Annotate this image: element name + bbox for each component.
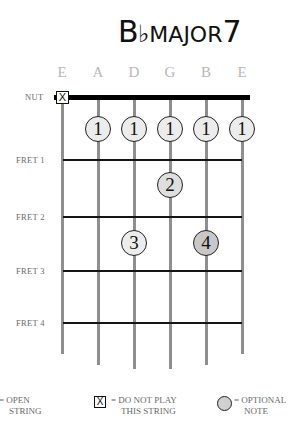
finger-dot-d-fret3: 3 [121,230,147,256]
finger-dot-b-fret3-optional: 4 [193,230,219,256]
string-low-e [61,97,64,354]
finger-dot-high-e-fret1: 1 [229,116,255,142]
chord-title: B♭MAJOR7 [0,14,299,49]
legend-do-not-play: = DO NOT PLAY THIS STRING [111,395,177,417]
fret-1-label: FRET 1 [16,155,45,165]
string-name-g: G [160,64,180,81]
chord-quality: MAJOR [149,22,222,47]
fret-3-label: FRET 3 [16,266,45,276]
fret-3-line [63,270,242,272]
string-name-low-e: E [52,64,72,81]
fret-1-line [63,159,242,161]
finger-dot-g-fret1: 1 [157,116,183,142]
finger-dot-d-fret1: 1 [121,116,147,142]
legend-mute-line1: = DO NOT PLAY [111,395,177,406]
legend-mute-icon: X [94,396,106,408]
string-names: E A D G B E [0,64,299,84]
finger-dot-b-fret1: 1 [193,116,219,142]
legend-mute-line2: THIS STRING [111,406,177,417]
legend-open-string: = OPEN STRING [0,395,42,417]
string-name-a: A [88,64,108,81]
flat-symbol: ♭ [138,20,149,48]
legend-optional-note-icon [217,396,232,411]
muted-string-icon: X [56,91,69,104]
finger-dot-a-fret1: 1 [85,116,111,142]
nut-label: NUT [25,92,43,102]
finger-dot-g-fret2: 2 [157,172,183,198]
chord-root: B [118,14,138,49]
nut-line [54,95,250,100]
string-name-high-e: E [232,64,252,81]
legend-optional-line1: = OPTIONAL [234,395,286,406]
fret-4-label: FRET 4 [16,318,45,328]
legend-open-line1: = OPEN [0,395,42,406]
legend-optional-line2: NOTE [234,406,286,417]
string-name-d: D [124,64,144,81]
string-name-b: B [196,64,216,81]
chord-extension: 7 [222,14,241,49]
legend-optional-note: = OPTIONAL NOTE [234,395,286,417]
fret-2-label: FRET 2 [16,212,45,222]
fret-4-line [63,322,242,324]
fret-2-line [63,216,242,218]
legend-open-line2: STRING [0,406,42,417]
